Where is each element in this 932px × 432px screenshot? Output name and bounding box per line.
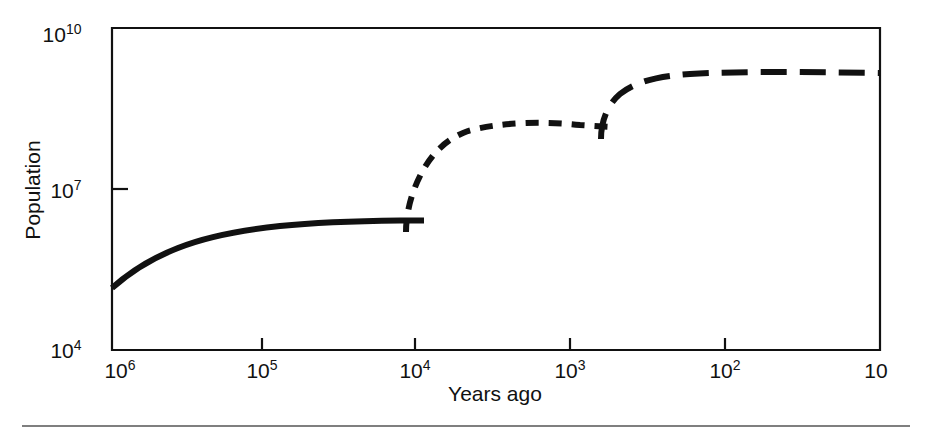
x-tick-label-1e3: 103: [554, 357, 585, 382]
y-axis-title: Population: [21, 140, 44, 239]
x-tick-label-1e2: 102: [709, 357, 740, 382]
y-axis-tick-labels: 1010 107 104: [43, 21, 82, 362]
x-tick-label-1e4: 104: [399, 357, 430, 382]
x-axis-tick-labels: 106 105 104 103 102 10: [104, 357, 887, 382]
x-tick-label-1e6: 106: [104, 357, 135, 382]
x-axis-title: Years ago: [448, 382, 542, 405]
y-tick-label-1e7: 107: [50, 177, 81, 202]
figure-page: 1010 107 104 106 105 104 103 1: [0, 0, 932, 432]
series-hunter-gatherer: [112, 221, 424, 289]
x-tick-label-1e5: 105: [246, 357, 277, 382]
plot-border: [112, 28, 880, 350]
x-tick-label-10: 10: [864, 359, 887, 382]
plot-frame: [112, 28, 880, 350]
y-tick-label-1e4: 104: [50, 337, 81, 362]
x-axis-ticks: [262, 338, 725, 350]
population-growth-chart: 1010 107 104 106 105 104 103 1: [0, 0, 932, 432]
series-agricultural-revolution: [406, 123, 612, 232]
series-industrial-revolution: [601, 72, 880, 139]
y-tick-label-1e10: 1010: [43, 21, 82, 46]
